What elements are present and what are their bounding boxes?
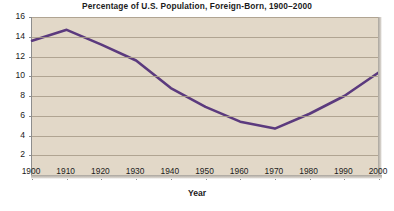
y-axis-tick-label: 12 <box>0 51 25 61</box>
chart-figure: Percentage of U.S. Population, Foreign-B… <box>0 0 394 211</box>
gridline <box>32 155 379 156</box>
y-axis-tick <box>29 116 32 117</box>
plot-right-edge-shadow <box>378 17 382 178</box>
gridline <box>32 76 379 77</box>
gridline <box>32 136 379 137</box>
y-axis-tick-label: 2 <box>0 149 25 159</box>
y-axis-tick <box>29 136 32 137</box>
y-axis-tick <box>29 37 32 38</box>
y-axis-labels: 246810121416 <box>0 17 31 175</box>
plot-area <box>31 17 379 175</box>
gridline <box>32 57 379 58</box>
chart-title: Percentage of U.S. Population, Foreign-B… <box>0 1 394 11</box>
y-axis-tick-label: 8 <box>0 90 25 100</box>
x-axis-title: Year <box>0 188 394 198</box>
gridline <box>32 116 379 117</box>
y-axis-tick-label: 10 <box>0 70 25 80</box>
y-axis-tick-label: 14 <box>0 31 25 41</box>
gridline <box>32 17 379 18</box>
y-axis-tick <box>29 17 32 18</box>
y-axis-tick <box>29 57 32 58</box>
x-axis-tick-label: 2000 <box>358 166 394 176</box>
y-axis-tick <box>29 155 32 156</box>
y-axis-tick-label: 16 <box>0 11 25 21</box>
y-axis-tick <box>29 96 32 97</box>
y-axis-tick <box>29 76 32 77</box>
gridline <box>32 37 379 38</box>
y-axis-tick-label: 4 <box>0 130 25 140</box>
gridline <box>32 96 379 97</box>
y-axis-tick-label: 6 <box>0 110 25 120</box>
